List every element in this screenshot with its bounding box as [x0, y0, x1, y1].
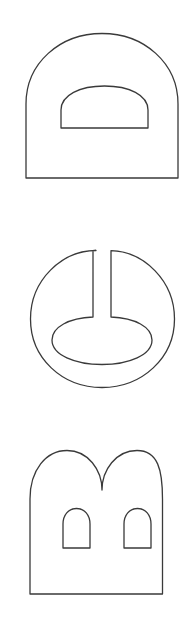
- notched-ring-glyph-outline: [31, 251, 175, 388]
- double-arch-glyph-counter-right: [124, 509, 151, 549]
- double-arch-glyph: [30, 451, 163, 595]
- double-arch-glyph-counter-left: [63, 509, 90, 549]
- notched-ring-glyph: [31, 251, 175, 388]
- shape-canvas: [0, 0, 195, 635]
- arch-glyph: [26, 34, 178, 179]
- arch-glyph-counter: [61, 86, 148, 128]
